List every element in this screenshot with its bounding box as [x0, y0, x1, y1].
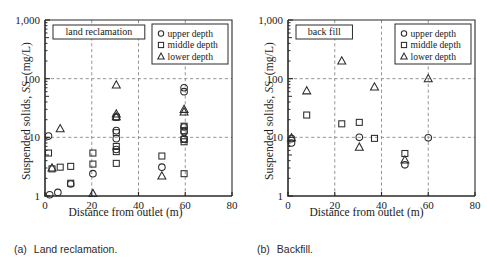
- caption-b-text: Backfill.: [277, 243, 313, 255]
- figure-root: 1101001,000020406080land reclamationuppe…: [0, 0, 487, 278]
- y-axis-label-a: Suspended solids, SS (mg/L): [20, 21, 32, 201]
- data-point: [303, 87, 311, 94]
- data-point: [159, 153, 165, 159]
- y-tick-label-1: 1: [278, 190, 284, 202]
- legend-label-lower-depth: lower depth: [411, 51, 457, 62]
- data-point: [90, 170, 97, 177]
- data-point: [112, 81, 120, 88]
- scatter-plot-a: 1101001,000020406080land reclamationuppe…: [0, 0, 243, 215]
- caption-a-index: (a): [14, 243, 27, 255]
- data-point: [371, 135, 377, 141]
- tag-label: back fill: [308, 26, 341, 37]
- scatter-plot-b: 1101001,000020406080back fillupper depth…: [243, 0, 486, 215]
- data-point: [56, 125, 64, 132]
- series-upper-depth: [45, 84, 187, 198]
- legend-label-lower-depth: lower depth: [168, 51, 214, 62]
- caption-a: (a)Land reclamation.: [14, 243, 117, 255]
- data-point: [113, 127, 120, 134]
- series-lower-depth: [48, 81, 188, 197]
- chart-panel-a: 1101001,000020406080land reclamationuppe…: [0, 0, 243, 278]
- data-point: [159, 164, 166, 171]
- y-axis-label-b: Suspended solids, SS (mg/L): [263, 21, 275, 201]
- data-point: [113, 160, 119, 166]
- data-point: [370, 83, 378, 90]
- data-point: [68, 163, 74, 169]
- legend-label-upper-depth: upper depth: [168, 28, 214, 39]
- y-axis-label-a-text: Suspended solids, SS (mg/L): [20, 42, 32, 180]
- series-middle-depth: [46, 114, 188, 186]
- data-point: [113, 135, 120, 142]
- data-point: [180, 108, 188, 115]
- caption-b-index: (b): [257, 243, 270, 255]
- series-upper-depth: [288, 134, 431, 168]
- data-point: [90, 150, 96, 156]
- data-point: [181, 171, 187, 177]
- legend-label-middle-depth: middle depth: [411, 39, 462, 50]
- data-point: [304, 112, 310, 118]
- y-axis-label-b-text: Suspended solids, SS (mg/L): [263, 42, 275, 180]
- y-tick-label-1: 1: [35, 190, 41, 202]
- chart-panel-b: 1101001,000020406080back fillupper depth…: [243, 0, 486, 278]
- data-point: [45, 133, 52, 140]
- data-point: [355, 143, 363, 150]
- data-point: [55, 189, 62, 196]
- data-point: [158, 172, 166, 179]
- x-axis-label-b: Distance from outlet (m): [245, 206, 487, 218]
- legend-label-upper-depth: upper depth: [411, 28, 457, 39]
- data-point: [57, 164, 63, 170]
- x-axis-label-a: Distance from outlet (m): [4, 206, 247, 218]
- legend-label-middle-depth: middle depth: [168, 39, 219, 50]
- data-point: [338, 57, 346, 64]
- caption-a-text: Land reclamation.: [34, 243, 117, 255]
- tag-label: land reclamation: [65, 26, 132, 37]
- data-point: [181, 88, 188, 95]
- data-point: [339, 121, 345, 127]
- series-lower-depth: [288, 57, 433, 163]
- data-point: [402, 162, 409, 169]
- data-point: [90, 161, 96, 167]
- data-point: [356, 119, 362, 125]
- caption-b: (b)Backfill.: [257, 243, 313, 255]
- data-point: [46, 191, 53, 198]
